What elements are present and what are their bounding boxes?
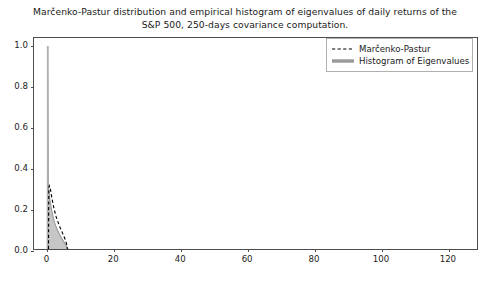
legend-item-marcenko-pastur: Marčenko-Pastur [332,43,466,55]
x-tick-label: 0 [44,254,49,264]
x-tick-mark [449,249,450,252]
y-tick-mark [31,251,34,252]
chart-title-line-2: S&P 500, 250-days covariance computation… [0,18,490,31]
x-tick-mark [181,249,182,252]
x-tick-label: 100 [373,254,389,264]
x-tick-label: 120 [440,254,456,264]
legend-label-marcenko-pastur: Marčenko-Pastur [359,44,431,54]
chart-title-line-1: Marčenko-Pastur distribution and empiric… [33,6,457,17]
chart-title: Marčenko-Pastur distribution and empiric… [0,5,490,31]
chart-legend: Marčenko-Pastur Histogram of Eigenvalues [326,38,473,72]
y-tick-label: 1.0 [4,40,28,50]
x-tick-mark [248,249,249,252]
y-tick-label: 0.6 [4,122,28,132]
y-tick-label: 0.4 [4,163,28,173]
x-tick-label: 40 [175,254,186,264]
y-tick-mark [31,210,34,211]
x-tick-label: 60 [242,254,253,264]
histogram-area [47,46,68,249]
y-tick-label: 0.0 [4,245,28,255]
y-tick-mark [31,169,34,170]
legend-label-histogram: Histogram of Eigenvalues [359,56,469,66]
y-tick-label: 0.8 [4,81,28,91]
y-tick-label: 0.2 [4,204,28,214]
y-tick-mark [31,46,34,47]
solid-line-icon [332,56,354,66]
dashed-line-icon [332,44,354,54]
x-tick-mark [382,249,383,252]
figure-canvas: Marčenko-Pastur distribution and empiric… [0,0,490,283]
legend-item-histogram: Histogram of Eigenvalues [332,55,466,67]
y-tick-mark [31,87,34,88]
y-tick-mark [31,128,34,129]
x-tick-mark [315,249,316,252]
x-tick-mark [114,249,115,252]
x-tick-label: 80 [309,254,320,264]
x-tick-label: 20 [108,254,119,264]
x-tick-mark [47,249,48,252]
